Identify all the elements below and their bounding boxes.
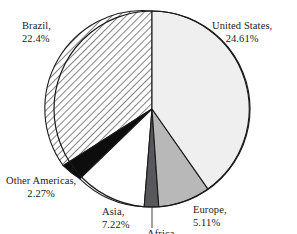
pie-label-united-states-name: United States, bbox=[212, 20, 272, 31]
pie-chart-figure: Brazil, 22.4% United States, 24.61% Othe… bbox=[0, 0, 297, 234]
pie-label-asia-value: 7.22% bbox=[102, 219, 130, 232]
pie-label-brazil-value: 22.4% bbox=[22, 33, 51, 46]
pie-label-asia-name: Asia, bbox=[102, 206, 124, 217]
pie-label-other-americas: Other Americas, 2.27% bbox=[6, 175, 76, 200]
pie-label-other-americas-name: Other Americas, bbox=[6, 175, 76, 186]
pie-label-other-americas-value: 2.27% bbox=[6, 188, 76, 201]
pie-label-brazil-name: Brazil, bbox=[22, 20, 51, 31]
pie-label-united-states-value: 24.61% bbox=[212, 33, 272, 46]
pie-label-brazil: Brazil, 22.4% bbox=[22, 20, 51, 45]
pie-label-africa: Africa, bbox=[147, 228, 177, 234]
pie-label-europe-value: 5.11% bbox=[193, 217, 227, 230]
pie-label-africa-name: Africa, bbox=[147, 228, 177, 234]
pie-label-europe: Europe, 5.11% bbox=[193, 204, 227, 229]
pie-label-europe-name: Europe, bbox=[193, 204, 227, 215]
pie-label-asia: Asia, 7.22% bbox=[102, 206, 130, 231]
pie-label-united-states: United States, 24.61% bbox=[212, 20, 272, 45]
